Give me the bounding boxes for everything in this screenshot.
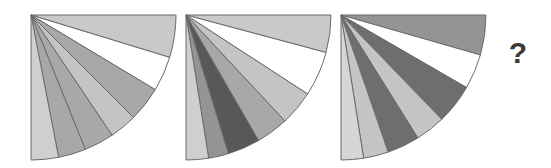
fan-svg — [30, 14, 177, 161]
fan-figure-1 — [30, 14, 177, 161]
answer-slot[interactable]: ? — [498, 30, 538, 75]
fan-figure-3 — [340, 14, 487, 161]
fan-figure-2 — [185, 14, 332, 161]
fan-svg — [340, 14, 487, 161]
puzzle-canvas: ? — [0, 0, 551, 168]
fan-svg — [185, 14, 332, 161]
question-mark-glyph: ? — [509, 38, 527, 68]
